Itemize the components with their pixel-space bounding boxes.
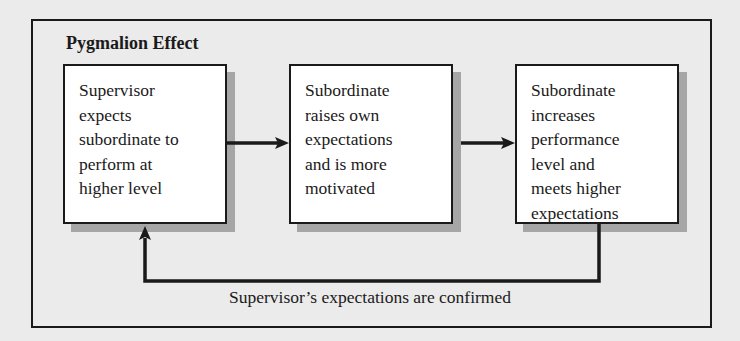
arrow-right-icon xyxy=(461,137,515,149)
feedback-loop-arrow-icon xyxy=(139,224,599,281)
arrow-right-icon xyxy=(227,137,289,149)
feedback-caption: Supervisor’s expectations are confirmed xyxy=(200,287,540,307)
